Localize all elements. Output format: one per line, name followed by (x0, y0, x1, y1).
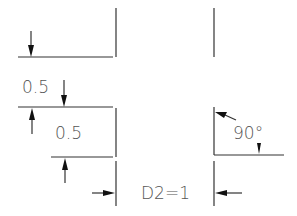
dimension-label-lower: 0.5 (55, 123, 82, 143)
arrow-right-icon (92, 190, 115, 196)
arrow-up-icon (62, 158, 68, 183)
arrow-up-icon (29, 108, 35, 134)
angle-arrow-vertical-icon (215, 112, 236, 120)
width-label: D2=1 (141, 183, 190, 203)
arrow-left-icon (215, 190, 242, 196)
angle-label: 90° (233, 123, 263, 143)
arrow-down-icon (28, 31, 34, 57)
dimension-drawing: 0.5 0.5 90° D2=1 (0, 0, 297, 216)
angle-arrow-horizontal-icon (257, 143, 261, 154)
dimension-label-upper: 0.5 (22, 77, 49, 97)
arrow-down-icon (61, 80, 67, 107)
